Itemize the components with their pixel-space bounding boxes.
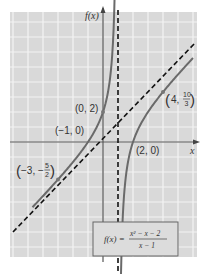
formula-lhs: f(x) = — [104, 234, 125, 244]
svg-text:): ) — [190, 91, 195, 108]
x-axis-label: x — [189, 145, 195, 156]
label-neg1-0: (−1, 0) — [55, 125, 84, 136]
svg-text:2: 2 — [45, 171, 49, 178]
y-axis-arrow-icon — [101, 6, 106, 13]
svg-text:(: ( — [165, 91, 170, 108]
formula-box: f(x) = x² − x − 2 x − 1 — [93, 222, 178, 256]
formula-denominator: x − 1 — [138, 241, 155, 250]
svg-text:5: 5 — [45, 162, 49, 169]
y-axis-label: f(x) — [85, 10, 100, 22]
label-2-0: (2, 0) — [136, 145, 159, 156]
svg-text:4,: 4, — [171, 94, 179, 105]
svg-text:): ) — [50, 162, 55, 179]
svg-text:−3, −: −3, − — [21, 165, 44, 176]
point-0-2 — [101, 110, 105, 114]
point-neg3-neg5-2 — [56, 178, 60, 182]
rational-function-graph: f(x) x (0, 2) (−1, 0) (2, 0) ( 4, 10 3 )… — [0, 0, 205, 280]
svg-text:3: 3 — [185, 100, 189, 107]
formula-numerator: x² − x − 2 — [129, 229, 161, 238]
label-0-2: (0, 2) — [75, 103, 98, 114]
